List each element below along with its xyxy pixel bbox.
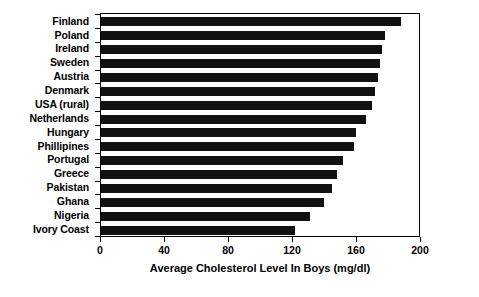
bar-row (100, 98, 419, 112)
value-tick-label: 40 (158, 244, 170, 256)
value-tick-label: 80 (222, 244, 234, 256)
category-label: Hungary (0, 125, 94, 139)
category-label: Nigeria (0, 208, 94, 222)
value-tick-mark (164, 237, 165, 242)
bar-row (100, 29, 419, 43)
category-label: Greece (0, 167, 94, 181)
value-tick-mark (100, 237, 101, 242)
value-tick-label: 0 (97, 244, 103, 256)
category-tick-mark (95, 28, 100, 29)
category-axis: FinlandPolandIrelandSwedenAustriaDenmark… (0, 14, 94, 236)
bar-row (100, 126, 419, 140)
category-tick-mark (95, 153, 100, 154)
value-axis-origin-line (100, 13, 101, 237)
category-label: Netherlands (0, 111, 94, 125)
category-label: Ivory Coast (0, 222, 94, 236)
category-tick-mark (95, 208, 100, 209)
value-tick-mark (292, 237, 293, 242)
category-label: Phillipines (0, 139, 94, 153)
value-tick-mark (356, 237, 357, 242)
category-tick-mark (95, 14, 100, 15)
category-label: Denmark (0, 83, 94, 97)
category-label: Sweden (0, 56, 94, 70)
category-tick-mark (95, 236, 100, 237)
category-tick-mark (95, 181, 100, 182)
value-tick-label: 200 (411, 244, 429, 256)
category-tick-mark (95, 42, 100, 43)
bar-row (100, 140, 419, 154)
bar-row (100, 168, 419, 182)
bar-row (100, 182, 419, 196)
category-tick-mark (95, 222, 100, 223)
category-label: Ghana (0, 194, 94, 208)
bar (100, 128, 356, 137)
bar-row (100, 112, 419, 126)
category-label: Austria (0, 70, 94, 84)
category-tick-mark (95, 139, 100, 140)
bar-row (100, 15, 419, 29)
category-label: USA (rural) (0, 97, 94, 111)
plot-area (100, 13, 420, 237)
category-label: Finland (0, 14, 94, 28)
bar (100, 142, 354, 151)
category-tick-mark (95, 56, 100, 57)
bar (100, 17, 401, 26)
value-axis-line (100, 236, 420, 237)
category-label: Pakistan (0, 181, 94, 195)
category-tick-mark (95, 111, 100, 112)
bar (100, 198, 324, 207)
category-tick-mark (95, 97, 100, 98)
bar (100, 170, 337, 179)
bar-row (100, 43, 419, 57)
category-tick-mark (95, 83, 100, 84)
bar-row (100, 84, 419, 98)
x-axis-title: Average Cholesterol Level In Boys (mg/dl… (100, 262, 420, 274)
bar (100, 101, 372, 110)
bar (100, 59, 380, 68)
bars-layer (100, 15, 419, 237)
category-label: Poland (0, 28, 94, 42)
bar-chart: FinlandPolandIrelandSwedenAustriaDenmark… (0, 0, 479, 297)
value-tick-label: 120 (283, 244, 301, 256)
value-tick-label: 160 (347, 244, 365, 256)
bar-row (100, 154, 419, 168)
bar (100, 184, 332, 193)
bar (100, 226, 295, 235)
bar-row (100, 57, 419, 71)
bar (100, 73, 378, 82)
category-tick-mark (95, 194, 100, 195)
bar (100, 115, 366, 124)
bar-row (100, 209, 419, 223)
category-tick-mark (95, 70, 100, 71)
bar (100, 156, 343, 165)
category-label: Ireland (0, 42, 94, 56)
category-tick-mark (95, 125, 100, 126)
bar-row (100, 223, 419, 237)
bar-row (100, 195, 419, 209)
bar (100, 45, 382, 54)
bar (100, 212, 310, 221)
category-tick-mark (95, 167, 100, 168)
value-tick-mark (228, 237, 229, 242)
value-tick-mark (420, 237, 421, 242)
bar (100, 31, 385, 40)
bar-row (100, 71, 419, 85)
bar (100, 87, 375, 96)
category-label: Portugal (0, 153, 94, 167)
